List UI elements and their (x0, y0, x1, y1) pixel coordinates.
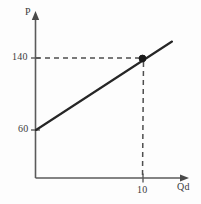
y-tick-label-140: 140 (12, 52, 28, 62)
x-tick-label-10: 10 (137, 185, 148, 195)
supply-curve (36, 42, 172, 131)
y-axis-title: P (25, 7, 31, 17)
supply-curve-figure: P Qd 140 60 10 (0, 0, 201, 204)
plot-area (0, 0, 201, 204)
vertical-guide-dash (143, 62, 144, 177)
x-axis-title: Qd (177, 182, 190, 192)
y-axis-arrowhead (32, 11, 39, 20)
equilibrium-point-marker (139, 55, 146, 62)
y-tick-label-60: 60 (18, 124, 29, 134)
